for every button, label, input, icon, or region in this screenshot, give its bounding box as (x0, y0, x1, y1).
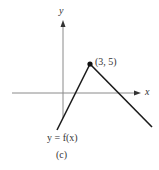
y-axis-arrow-icon (61, 20, 66, 27)
peak-point (87, 61, 92, 66)
x-axis-label: x (145, 87, 149, 97)
function-right-segment (90, 64, 152, 127)
graph-canvas (0, 0, 159, 170)
point-label: (3, 5) (95, 57, 117, 67)
x-axis-arrow-icon (134, 91, 141, 96)
y-axis-label: y (59, 6, 63, 16)
figure-caption: (c) (56, 150, 67, 160)
function-left-segment (57, 64, 90, 130)
function-label: y = f(x) (47, 133, 78, 143)
